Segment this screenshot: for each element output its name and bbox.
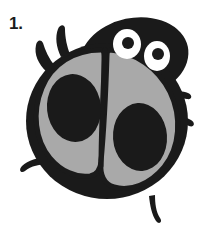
illustration-page: 1. (0, 0, 218, 234)
ladybug-illustration (0, 0, 218, 234)
right-pupil (152, 48, 164, 60)
ladybug-svg (0, 0, 218, 234)
leg-bottom (149, 195, 161, 223)
left-pupil (122, 37, 134, 49)
leg-upper-left-inner (56, 25, 70, 57)
